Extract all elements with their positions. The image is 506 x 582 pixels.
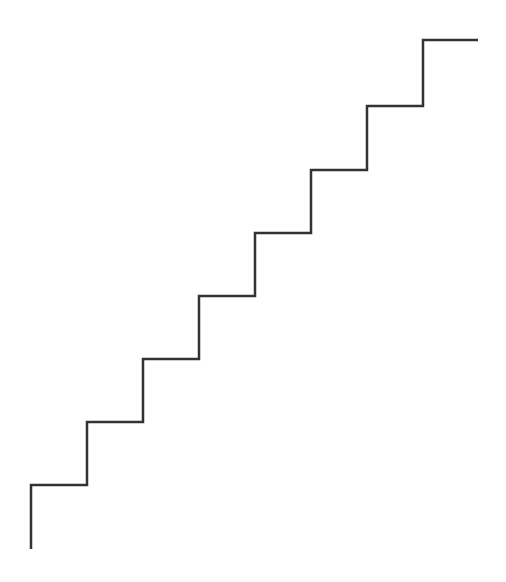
staircase-line: [31, 40, 478, 549]
staircase-diagram: [0, 0, 506, 582]
